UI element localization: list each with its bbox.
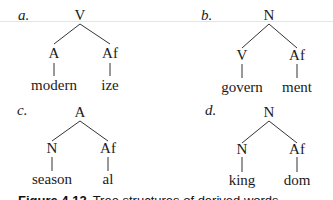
right-node: Af	[100, 141, 116, 156]
tree-letter: b.	[201, 8, 212, 23]
caption-label: Figure 4.12	[18, 193, 87, 200]
right-node: Af	[102, 46, 118, 61]
left-node: A	[49, 46, 60, 61]
tree-d: d. N N Af king dom	[165, 95, 325, 185]
root-node: A	[75, 105, 86, 120]
root-node: N	[264, 8, 275, 23]
tree-c: c. A N Af season al	[0, 95, 160, 185]
root-node: V	[75, 8, 86, 23]
tree-b-branches	[165, 0, 325, 90]
left-word: govern	[221, 80, 263, 95]
tree-a: a. V A Af modern ize	[0, 0, 160, 90]
right-word: dom	[284, 173, 311, 188]
right-word: al	[103, 172, 114, 187]
left-node: V	[237, 48, 248, 63]
left-node: N	[237, 142, 248, 157]
tree-letter: c.	[17, 103, 27, 118]
caption-text: Tree structures of derived words	[93, 193, 279, 200]
tree-letter: d.	[205, 103, 216, 118]
left-word: season	[32, 172, 72, 187]
root-node: N	[264, 105, 275, 120]
tree-letter: a.	[18, 8, 29, 23]
left-word: king	[229, 173, 256, 188]
right-word: ment	[282, 80, 312, 95]
right-word: ize	[101, 78, 118, 93]
left-word: modern	[31, 78, 77, 93]
tree-b: b. N V Af govern ment	[165, 0, 325, 90]
right-node: Af	[289, 142, 305, 157]
left-node: N	[47, 141, 58, 156]
right-node: Af	[289, 48, 305, 63]
figure-caption: Figure 4.12Tree structures of derived wo…	[18, 193, 279, 200]
